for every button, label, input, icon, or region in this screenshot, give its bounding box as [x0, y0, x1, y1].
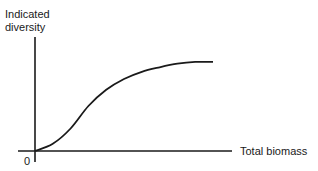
diversity-biomass-chart	[0, 0, 318, 171]
diversity-curve	[35, 62, 213, 151]
